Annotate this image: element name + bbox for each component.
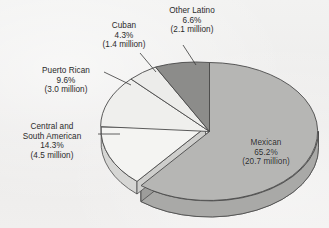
label-name-line2: South American [2,132,102,142]
label-percent: 14.3% [2,141,102,151]
label-name: Cuban [84,21,164,31]
label-percent: 4.3% [84,31,164,41]
label-count: (20.7 million) [218,157,314,167]
label-count: (4.5 million) [2,151,102,161]
label-percent: 9.6% [22,76,110,86]
label-name: Other Latino [150,6,234,16]
label-name: Puerto Rican [22,66,110,76]
slice-label-mexican: Mexican 65.2% (20.7 million) [218,138,314,167]
label-name-line1: Central and [2,122,102,132]
label-count: (3.0 million) [22,85,110,95]
leader-line-cuban [140,53,156,72]
label-count: (1.4 million) [84,40,164,50]
slice-label-cuban: Cuban 4.3% (1.4 million) [84,21,164,50]
label-percent: 65.2% [218,148,314,158]
label-name: Mexican [218,138,314,148]
slice-label-puerto-rican: Puerto Rican 9.6% (3.0 million) [22,66,110,95]
slice-label-central-south-american: Central and South American 14.3% (4.5 mi… [2,122,102,160]
pie-chart-figure: Other Latino 6.6% (2.1 million) Cuban 4.… [0,0,329,228]
